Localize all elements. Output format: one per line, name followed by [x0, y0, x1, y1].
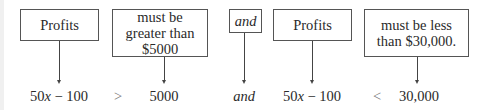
box-and: and: [229, 9, 262, 33]
expr-left-1-coef: 50: [30, 88, 45, 104]
expr-left-2-rest: − 100: [304, 88, 341, 104]
box-and-label: and: [235, 13, 257, 29]
expr-value-2: 30,000: [399, 88, 439, 105]
box-must-be-less-label: must be less than $30,000.: [367, 17, 466, 49]
box-profits-2-label: Profits: [293, 17, 332, 33]
expr-left-1: 50x − 100: [30, 88, 88, 105]
expr-left-2-coef: 50: [283, 88, 298, 104]
expr-value-1: 5000: [150, 88, 179, 105]
box-profits-1-label: Profits: [40, 17, 79, 33]
expr-op-greater: >: [114, 88, 122, 105]
box-must-be-greater-label: must be greater than $5000: [117, 9, 203, 57]
arrow-and: [244, 33, 245, 81]
expr-left-2: 50x − 100: [283, 88, 341, 105]
expr-conjunction: and: [233, 88, 255, 105]
arrow-profits-2: [312, 41, 313, 81]
left-margin: [0, 0, 4, 110]
arrow-profits-1: [59, 41, 60, 81]
box-must-be-less: must be less than $30,000.: [364, 9, 469, 57]
box-must-be-greater: must be greater than $5000: [112, 9, 208, 57]
box-profits-1: Profits: [20, 9, 99, 41]
expr-left-1-rest: − 100: [51, 88, 88, 104]
arrow-greater: [164, 57, 165, 81]
arrow-less: [417, 57, 418, 81]
expr-op-less: <: [373, 88, 381, 105]
box-profits-2: Profits: [273, 9, 352, 41]
